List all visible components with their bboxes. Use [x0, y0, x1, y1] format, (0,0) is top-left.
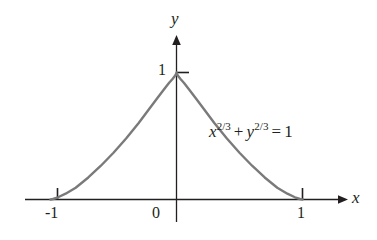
- equation-exponent-y: 2/3: [254, 120, 268, 132]
- equation-operator: +: [231, 122, 247, 141]
- x-axis-arrowhead: [338, 195, 348, 204]
- x-tick-label-neg1: -1: [45, 205, 58, 221]
- y-tick-label-1: 1: [158, 62, 166, 78]
- equation-annotation: x2/3+y2/3=1: [209, 120, 293, 142]
- origin-label: 0: [152, 205, 160, 221]
- equation-exponent-x: 2/3: [217, 120, 231, 132]
- equation-equals-sign: =: [268, 122, 284, 141]
- equation-base-x: x: [209, 122, 217, 141]
- x-axis-label: x: [352, 189, 360, 206]
- y-axis-label: y: [171, 10, 179, 27]
- equation-right-hand-side: 1: [284, 122, 293, 141]
- astroid-figure: y x 1 -1 0 1 x2/3+y2/3=1: [0, 0, 377, 240]
- y-axis-arrowhead: [172, 35, 181, 45]
- x-tick-label-1: 1: [297, 205, 305, 221]
- y-axis: [172, 35, 181, 222]
